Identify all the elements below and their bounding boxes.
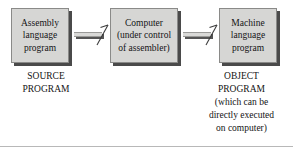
caption-object-program: OBJECT PROGRAM (which can be directly ex… [190, 70, 293, 135]
bottom-divider [0, 146, 293, 147]
node-source-program-label: Assembly language program [21, 17, 59, 54]
node-computer-assembler: Computer (under control of assembler) [110, 8, 178, 63]
arrowhead-icon [205, 24, 219, 46]
node-machine-language-program-label: Machine language program [231, 17, 265, 54]
arrow-source-to-process [74, 31, 102, 40]
arrow-process-to-object [183, 31, 211, 40]
caption-source-program: SOURCE PROGRAM [0, 70, 92, 96]
assembler-process-diagram: Assembly language program Computer (unde… [0, 0, 293, 159]
node-machine-language-program: Machine language program [219, 8, 277, 63]
arrowhead-icon [96, 24, 110, 46]
node-computer-assembler-label: Computer (under control of assembler) [117, 17, 171, 54]
node-source-program: Assembly language program [11, 8, 69, 63]
